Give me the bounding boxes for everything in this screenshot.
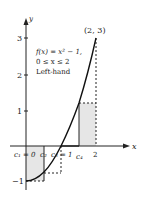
tick-label-ym1: −1 [12,177,24,186]
tick-label-2: 2 [93,151,97,159]
tick-label-c3: c₃ = 1 [51,151,73,159]
point-label: (2, 3) [84,26,106,35]
x-axis-label: x [132,142,137,151]
function-label: f(x) = x² − 1, [35,48,82,56]
y-axis-arrow [24,18,29,25]
tick-label-y2: 2 [17,71,22,80]
riemann-sum-chart: y x 3 2 1 −1 (2, 3) f(x) = x² − 1, 0 ≤ x… [0,0,144,206]
tick-label-c4: c₄ [76,153,83,161]
x-axis-arrow [123,144,130,149]
rect-c4 [79,103,96,146]
domain-label: 0 ≤ x ≤ 2 [36,58,70,66]
method-label: Left-hand [36,68,71,76]
y-axis-label: y [28,15,34,23]
tick-label-c1: c₁ = 0 [14,151,36,159]
tick-label-y3: 3 [17,34,22,43]
tick-label-y1: 1 [17,107,22,116]
tick-label-c2: c₂ [40,151,47,159]
